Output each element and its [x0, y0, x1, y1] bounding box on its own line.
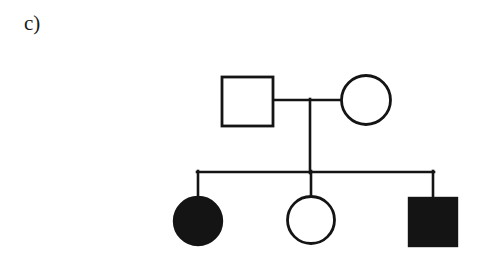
symbol-female-affected-daughter-one: [174, 197, 222, 245]
generation-two: [174, 197, 457, 247]
pedigree-figure-panel: c) c): [0, 0, 482, 263]
symbol-female-unaffected-mother: [342, 76, 391, 125]
symbol-male-affected-son: [409, 198, 457, 246]
pedigree-diagram: [0, 0, 482, 263]
symbol-female-unaffected-daughter-two: [288, 197, 335, 244]
symbol-male-unaffected-father: [222, 77, 273, 126]
